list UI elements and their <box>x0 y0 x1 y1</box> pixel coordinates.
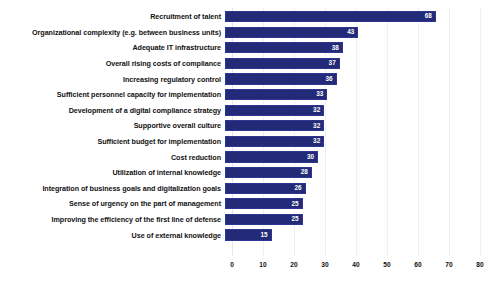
bar-cell: 32 <box>225 103 497 119</box>
bar-value-label: 37 <box>329 60 339 66</box>
chart-row: Sufficient budget for implementation32 <box>0 134 497 150</box>
chart-row: Improving the efficiency of the first li… <box>0 212 497 228</box>
bar[interactable]: 36 <box>225 73 337 84</box>
category-label: Adequate IT infrastructure <box>0 44 225 51</box>
bar-value-label: 25 <box>291 201 301 207</box>
bar-value-label: 28 <box>301 169 311 175</box>
x-tick-label: 80 <box>476 262 483 269</box>
chart-row: Overall rising costs of compliance37 <box>0 56 497 72</box>
category-label: Organizational complexity (e.g. between … <box>0 29 225 36</box>
bar[interactable]: 25 <box>225 214 303 225</box>
category-label: Increasing regulatory control <box>0 76 225 83</box>
bar[interactable]: 43 <box>225 27 358 38</box>
category-label: Improving the efficiency of the first li… <box>0 216 225 223</box>
category-label: Sufficient budget for implementation <box>0 138 225 145</box>
chart-row: Utilization of internal knowledge28 <box>0 165 497 181</box>
bar-value-label: 33 <box>316 91 326 97</box>
category-label: Recruitment of talent <box>0 13 225 20</box>
bar-value-label: 32 <box>313 138 323 144</box>
bar-value-label: 32 <box>313 123 323 129</box>
bar[interactable]: 68 <box>225 11 436 22</box>
chart-row: Supportive overall culture32 <box>0 118 497 134</box>
chart-row: Sense of urgency on the part of manageme… <box>0 196 497 212</box>
category-label: Integration of business goals and digita… <box>0 185 225 192</box>
x-axis: 01020304050607080 <box>0 257 497 281</box>
bar-cell: 37 <box>225 56 497 72</box>
bar[interactable]: 37 <box>225 58 340 69</box>
category-label: Sufficient personnel capacity for implem… <box>0 91 225 98</box>
bar[interactable]: 32 <box>225 120 324 131</box>
bar-cell: 68 <box>225 9 497 25</box>
bar-chart: Recruitment of talent68Organizational co… <box>0 0 497 281</box>
category-label: Cost reduction <box>0 154 225 161</box>
bar-cell: 43 <box>225 25 497 41</box>
bar-cell: 33 <box>225 87 497 103</box>
bar-value-label: 38 <box>332 45 342 51</box>
bar-cell: 36 <box>225 71 497 87</box>
category-label: Development of a digital compliance stra… <box>0 107 225 114</box>
category-label: Sense of urgency on the part of manageme… <box>0 200 225 207</box>
bar-cell: 32 <box>225 134 497 150</box>
bar-value-label: 68 <box>425 13 435 19</box>
chart-row: Use of external knowledge15 <box>0 227 497 243</box>
category-label: Supportive overall culture <box>0 122 225 129</box>
bar-value-label: 15 <box>260 232 270 238</box>
bar-value-label: 36 <box>325 76 335 82</box>
chart-row: Adequate IT infrastructure38 <box>0 40 497 56</box>
bar-cell: 38 <box>225 40 497 56</box>
bar[interactable]: 25 <box>225 198 303 209</box>
x-tick-label: 30 <box>321 262 328 269</box>
bar[interactable]: 15 <box>225 229 272 240</box>
x-tick-label: 20 <box>290 262 297 269</box>
x-tick-label: 40 <box>352 262 359 269</box>
bar-cell: 30 <box>225 149 497 165</box>
bar-value-label: 32 <box>313 107 323 113</box>
category-label: Use of external knowledge <box>0 232 225 239</box>
chart-row: Integration of business goals and digita… <box>0 181 497 197</box>
bar-value-label: 25 <box>291 216 301 222</box>
bar[interactable]: 38 <box>225 42 343 53</box>
bar-cell: 32 <box>225 118 497 134</box>
bar-value-label: 43 <box>347 29 357 35</box>
bar-value-label: 26 <box>294 185 304 191</box>
chart-row: Sufficient personnel capacity for implem… <box>0 87 497 103</box>
chart-row: Organizational complexity (e.g. between … <box>0 25 497 41</box>
x-tick-label: 0 <box>230 262 234 269</box>
bar[interactable]: 28 <box>225 167 312 178</box>
x-tick-label: 50 <box>383 262 390 269</box>
chart-row: Increasing regulatory control36 <box>0 71 497 87</box>
chart-row: Cost reduction30 <box>0 149 497 165</box>
x-tick-label: 10 <box>259 262 266 269</box>
category-label: Overall rising costs of compliance <box>0 60 225 67</box>
bar[interactable]: 33 <box>225 89 327 100</box>
bar[interactable]: 32 <box>225 136 324 147</box>
bar-cell: 28 <box>225 165 497 181</box>
chart-rows: Recruitment of talent68Organizational co… <box>0 9 497 243</box>
bar-cell: 25 <box>225 196 497 212</box>
bar[interactable]: 30 <box>225 151 318 162</box>
bar-value-label: 30 <box>307 154 317 160</box>
x-tick-label: 60 <box>414 262 421 269</box>
category-label: Utilization of internal knowledge <box>0 169 225 176</box>
bar[interactable]: 32 <box>225 105 324 116</box>
bar[interactable]: 26 <box>225 183 306 194</box>
chart-row: Recruitment of talent68 <box>0 9 497 25</box>
bar-cell: 25 <box>225 212 497 228</box>
chart-row: Development of a digital compliance stra… <box>0 103 497 119</box>
bar-cell: 26 <box>225 181 497 197</box>
bar-cell: 15 <box>225 227 497 243</box>
x-tick-label: 70 <box>445 262 452 269</box>
